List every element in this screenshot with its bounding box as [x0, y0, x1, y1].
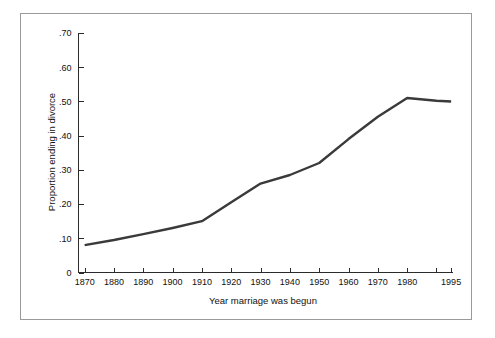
ticks-group	[79, 34, 452, 274]
y-tick-label: .10	[59, 234, 72, 244]
x-tick-labels: 1870188018901900191019201930194019501960…	[75, 277, 462, 287]
y-tick-label: .20	[59, 199, 72, 209]
y-tick-labels: 0.10.20.30.40.50.60.70	[59, 28, 72, 277]
x-tick-label: 1890	[133, 277, 153, 287]
data-series-group	[85, 98, 451, 245]
y-tick-label: .60	[59, 63, 72, 73]
x-tick-label: 1900	[163, 277, 183, 287]
x-tick-label: 1870	[75, 277, 95, 287]
y-tick-label: .70	[59, 28, 72, 38]
y-tick-label: .40	[59, 131, 72, 141]
y-tick-label: .30	[59, 165, 72, 175]
y-axis-title: Proportion ending in divorce	[46, 93, 57, 211]
line-chart: 1870188018901900191019201930194019501960…	[0, 0, 495, 338]
x-tick-label: 1970	[368, 277, 388, 287]
x-axis-title: Year marriage was begun	[209, 295, 317, 306]
x-tick-label: 1880	[104, 277, 124, 287]
x-tick-label: 1960	[339, 277, 359, 287]
x-tick-label: 1930	[251, 277, 271, 287]
y-tick-label: 0	[66, 268, 71, 278]
y-tick-label: .50	[59, 97, 72, 107]
figure-container: 1870188018901900191019201930194019501960…	[0, 0, 495, 338]
data-line-series	[85, 98, 451, 245]
x-tick-label: 1995	[441, 277, 461, 287]
x-tick-label: 1940	[280, 277, 300, 287]
x-tick-label: 1950	[309, 277, 329, 287]
x-tick-label: 1910	[192, 277, 212, 287]
x-tick-label: 1980	[397, 277, 417, 287]
x-tick-label: 1920	[221, 277, 241, 287]
